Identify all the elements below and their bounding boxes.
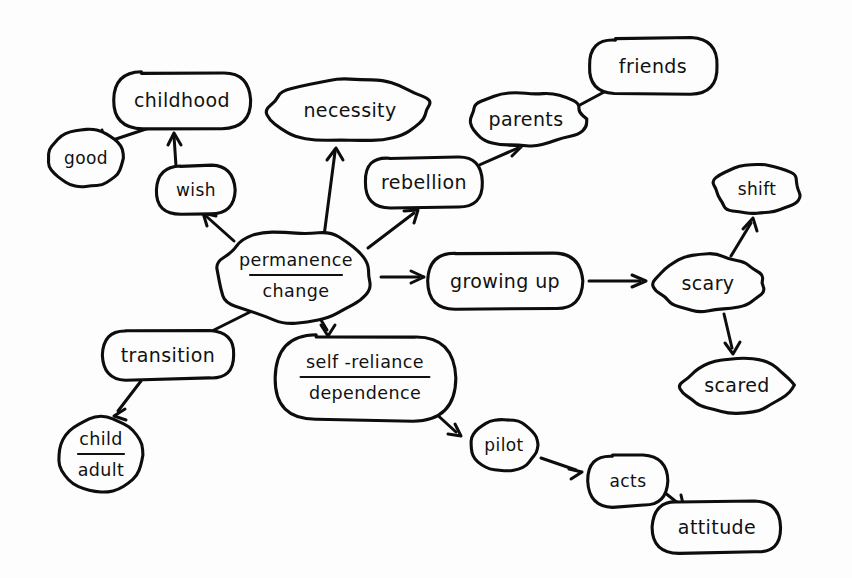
node-label-denominator: dependence <box>309 383 421 403</box>
node-self-reliance-dependence[interactable]: self -reliancedependence <box>275 335 456 421</box>
edges-layer <box>93 82 757 508</box>
node-label-numerator: self -reliance <box>306 352 424 372</box>
nodes-layer: goodchildhoodwishnecessityrebellionparen… <box>49 38 801 554</box>
node-label: scary <box>681 272 734 294</box>
node-scared[interactable]: scared <box>679 358 794 413</box>
node-childhood[interactable]: childhood <box>114 72 251 129</box>
edge-line <box>118 381 141 411</box>
node-label: scared <box>704 374 770 396</box>
edge-growing-to-scary <box>589 275 646 287</box>
node-acts[interactable]: acts <box>588 455 668 507</box>
node-shift[interactable]: shift <box>713 164 800 213</box>
node-attitude[interactable]: attitude <box>652 501 780 553</box>
arrowhead-icon <box>114 409 126 420</box>
node-label-numerator: child <box>79 429 123 449</box>
node-label: transition <box>121 344 216 366</box>
edge-rebellion-to-parents <box>477 145 522 166</box>
node-label: acts <box>610 471 647 491</box>
node-label: growing up <box>450 270 560 292</box>
edge-permanence-to-wish <box>203 213 234 241</box>
edge-scary-to-scared <box>724 314 740 354</box>
node-outline <box>217 232 370 323</box>
edge-line <box>174 136 176 166</box>
edge-line <box>731 223 751 256</box>
node-scary[interactable]: scary <box>653 254 764 312</box>
edge-scary-to-shift <box>731 218 757 256</box>
edge-permanence-to-growing <box>381 271 424 283</box>
node-permanence-change[interactable]: permanencechange <box>217 232 370 323</box>
node-child-adult[interactable]: childadult <box>59 416 143 492</box>
node-label-numerator: permanence <box>239 250 353 270</box>
node-label: good <box>64 148 108 168</box>
node-label: attitude <box>678 516 756 538</box>
edge-pilot-to-acts <box>541 458 582 479</box>
node-growing-up[interactable]: growing up <box>428 253 583 309</box>
node-label-denominator: change <box>263 281 330 301</box>
node-wish[interactable]: wish <box>156 165 235 214</box>
node-rebellion[interactable]: rebellion <box>365 157 482 208</box>
node-label: friends <box>619 55 687 77</box>
edge-transition-to-child <box>114 381 141 420</box>
node-label: wish <box>176 180 216 200</box>
edge-line <box>206 216 234 241</box>
node-label: pilot <box>484 435 523 455</box>
concept-map-canvas: goodchildhoodwishnecessityrebellionparen… <box>0 0 852 578</box>
arrowhead-icon <box>569 469 582 479</box>
edge-line <box>368 213 414 248</box>
node-label: childhood <box>134 89 230 111</box>
node-friends[interactable]: friends <box>590 38 717 95</box>
concept-map-svg: goodchildhoodwishnecessityrebellionparen… <box>0 0 852 578</box>
node-label: rebellion <box>381 171 467 193</box>
edge-line <box>324 152 335 236</box>
node-necessity[interactable]: necessity <box>266 79 430 140</box>
edge-permanence-to-self <box>321 320 335 336</box>
node-label: necessity <box>303 99 396 121</box>
node-label: shift <box>738 179 777 199</box>
node-good[interactable]: good <box>49 129 124 187</box>
node-label: parents <box>489 108 564 130</box>
node-parents[interactable]: parents <box>470 93 586 146</box>
node-transition[interactable]: transition <box>102 331 233 381</box>
edge-permanence-to-necessity <box>324 148 343 236</box>
node-label-denominator: adult <box>78 460 125 480</box>
edge-wish-to-childhood <box>168 133 181 166</box>
edge-permanence-to-rebellion <box>368 210 418 248</box>
node-pilot[interactable]: pilot <box>471 420 538 471</box>
